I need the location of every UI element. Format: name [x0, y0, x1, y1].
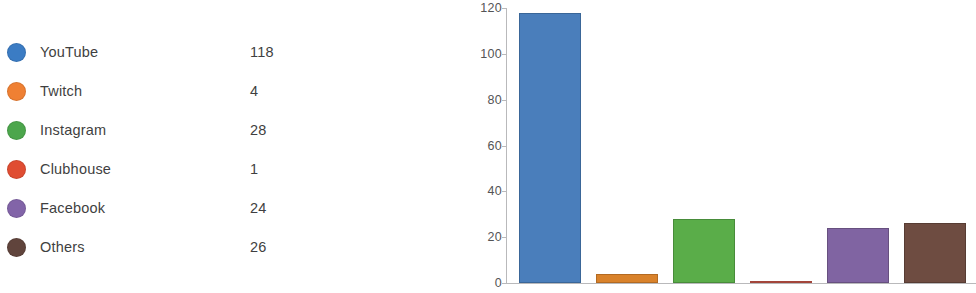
y-axis-tick-label: 0	[456, 276, 502, 290]
legend-color-swatch-others	[7, 238, 26, 257]
bar-chart-figure: YouTube 118 Twitch 4 Instagram 28 Clubho…	[0, 0, 976, 293]
y-axis-tick-label: 40	[456, 184, 502, 198]
y-axis-tick-label: 100	[456, 47, 502, 61]
legend-label-clubhouse: Clubhouse	[40, 160, 250, 179]
legend-panel: YouTube 118 Twitch 4 Instagram 28 Clubho…	[0, 0, 440, 293]
y-axis-tick-label: 120	[456, 1, 502, 15]
legend-row-others[interactable]: Others 26	[0, 234, 330, 260]
legend-value-youtube: 118	[250, 43, 320, 62]
legend-row-youtube[interactable]: YouTube 118	[0, 39, 330, 65]
legend-label-youtube: YouTube	[40, 43, 250, 62]
legend-value-instagram: 28	[250, 121, 320, 140]
legend-value-facebook: 24	[250, 199, 320, 218]
legend-row-instagram[interactable]: Instagram 28	[0, 117, 330, 143]
legend-value-twitch: 4	[250, 82, 320, 101]
legend-label-twitch: Twitch	[40, 82, 250, 101]
legend-value-clubhouse: 1	[250, 160, 320, 179]
legend-color-swatch-clubhouse	[7, 160, 26, 179]
y-axis-tick-label: 80	[456, 93, 502, 107]
bar-clubhouse[interactable]	[750, 281, 812, 283]
y-axis-tick-label: 20	[456, 230, 502, 244]
legend-label-facebook: Facebook	[40, 199, 250, 218]
legend-color-swatch-facebook	[7, 199, 26, 218]
legend-value-others: 26	[250, 238, 320, 257]
legend-color-swatch-twitch	[7, 82, 26, 101]
legend-row-facebook[interactable]: Facebook 24	[0, 195, 330, 221]
legend-label-instagram: Instagram	[40, 121, 250, 140]
bar-others[interactable]	[904, 223, 966, 283]
x-axis-line	[506, 283, 976, 284]
legend-row-twitch[interactable]: Twitch 4	[0, 78, 330, 104]
legend-label-others: Others	[40, 238, 250, 257]
legend-color-swatch-instagram	[7, 121, 26, 140]
bar-youtube[interactable]	[519, 13, 581, 283]
chart-plot: 020406080100120	[440, 0, 976, 293]
y-axis-tick-label: 60	[456, 139, 502, 153]
legend-row-clubhouse[interactable]: Clubhouse 1	[0, 156, 330, 182]
bar-instagram[interactable]	[673, 219, 735, 283]
y-axis-tick-labels: 020406080100120	[440, 0, 502, 293]
bar-twitch[interactable]	[596, 274, 658, 283]
bar-facebook[interactable]	[827, 228, 889, 283]
legend-color-swatch-youtube	[7, 43, 26, 62]
bars-container	[507, 8, 970, 283]
